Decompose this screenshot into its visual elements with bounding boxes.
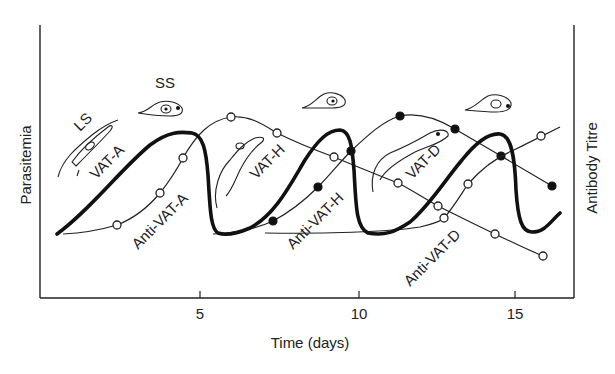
- x-axis-label: Time (days): [271, 334, 350, 351]
- x-tick-label-5: 5: [196, 305, 204, 322]
- anti-vat-a-marker: [273, 129, 281, 137]
- antigenic-variation-chart: 5 10 15 Time (days) Parasitemia Antibody…: [0, 0, 615, 374]
- x-tick-label-15: 15: [507, 305, 524, 322]
- anti-vat-a-marker: [491, 230, 499, 238]
- anti-vat-a-label: Anti-VAT-A: [128, 189, 191, 252]
- vat-d-label: VAT-D: [402, 140, 444, 182]
- anti-vat-h-marker: [314, 183, 322, 191]
- anti-vat-a-marker: [394, 179, 402, 187]
- anti-vat-h-label: Anti-VAT-H: [283, 189, 346, 252]
- ss-label: SS: [155, 74, 175, 91]
- anti-vat-a-marker: [179, 154, 187, 162]
- anti-vat-a-marker: [434, 202, 442, 210]
- vat-d-stumpy-icon: [465, 95, 511, 112]
- anti-vat-a-marker: [113, 221, 121, 229]
- anti-vat-d-marker: [537, 132, 545, 140]
- anti-vat-d-marker: [464, 180, 472, 188]
- x-tick-label-10: 10: [351, 305, 368, 322]
- left-y-axis-label: Parasitemia: [17, 125, 34, 205]
- anti-vat-a-marker: [330, 153, 338, 161]
- ls-label: LS: [70, 109, 95, 134]
- anti-vat-h-marker: [548, 182, 556, 190]
- right-y-axis-label: Antibody Titre: [583, 122, 600, 214]
- anti-vat-h-marker: [396, 112, 404, 120]
- anti-vat-a-marker: [539, 252, 547, 260]
- anti-vat-d-label: Anti-VAT-D: [400, 226, 464, 290]
- anti-vat-a-marker: [227, 113, 235, 121]
- vat-h-label: VAT-H: [246, 140, 288, 182]
- anti-vat-h-marker: [269, 217, 277, 225]
- anti-vat-h-marker: [451, 125, 459, 133]
- anti-vat-a-marker: [156, 189, 164, 197]
- vat-h-stumpy-icon: [302, 93, 345, 108]
- vat-a-label: VAT-A: [86, 141, 127, 182]
- short-stumpy-trypanosome-icon: [138, 101, 182, 116]
- anti-vat-d-marker: [440, 214, 448, 222]
